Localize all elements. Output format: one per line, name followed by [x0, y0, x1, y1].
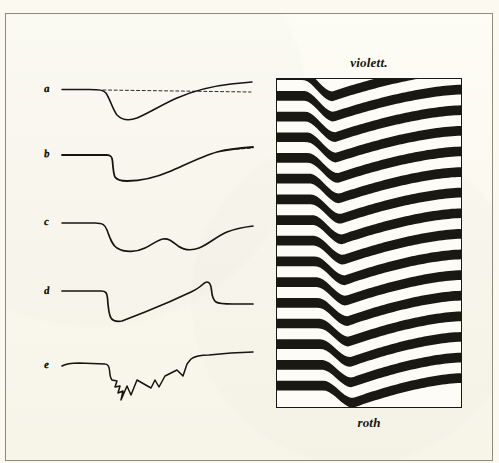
fringe-panel: [276, 78, 462, 408]
curve-c-trace: [62, 223, 253, 251]
illustration-plate: a b c d e violett. roth: [0, 0, 499, 463]
fringe-block: [276, 78, 462, 408]
curve-d-trace: [62, 282, 253, 321]
curve-b: [62, 147, 253, 181]
fringe-svg: [277, 79, 461, 407]
fringe-bottom-label: roth: [276, 415, 462, 431]
fringe-top-label: violett.: [276, 55, 462, 71]
curves-group: a b c d e: [45, 60, 260, 415]
curve-e: [62, 352, 253, 400]
curve-label-b: b: [44, 147, 50, 159]
curve-a-dashed-baseline: [103, 90, 251, 92]
curve-a: [62, 82, 252, 120]
curve-label-c: c: [44, 215, 49, 227]
curves-svg: [45, 60, 260, 415]
curve-c: [62, 223, 253, 251]
curve-label-a: a: [44, 82, 50, 94]
curve-e-trace: [62, 352, 253, 400]
curve-label-d: d: [44, 284, 50, 296]
curve-b-trace: [62, 147, 253, 181]
curve-label-e: e: [44, 358, 49, 370]
curve-d: [62, 282, 253, 321]
curve-a-trace: [62, 82, 252, 120]
